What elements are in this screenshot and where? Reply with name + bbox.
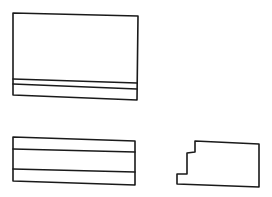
panel-divider	[13, 84, 137, 89]
wireframe-panel-striped	[13, 137, 135, 185]
wireframe-notched-block	[177, 141, 259, 187]
panel-outline	[13, 137, 135, 185]
panel-divider	[13, 149, 135, 152]
panel-divider	[13, 79, 137, 83]
notched-outline	[177, 141, 259, 187]
panel-divider	[13, 169, 135, 172]
sketch-canvas	[0, 0, 272, 197]
wireframe-panel-large	[13, 13, 138, 100]
